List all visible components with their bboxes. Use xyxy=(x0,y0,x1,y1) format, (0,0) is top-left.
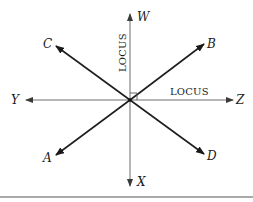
label-b: B xyxy=(206,37,216,51)
diagonal-line-d xyxy=(130,100,204,154)
label-c: C xyxy=(43,37,52,51)
label-y: Y xyxy=(11,93,20,107)
label-x: X xyxy=(136,175,146,189)
label-a: A xyxy=(42,151,52,165)
locus-label-horizontal: LOCUS xyxy=(170,86,209,97)
label-z: Z xyxy=(235,93,245,107)
label-d: D xyxy=(206,149,217,163)
diagram-canvas: W X Y Z C B A D LOCUS LOCUS xyxy=(0,0,253,202)
locus-label-vertical: LOCUS xyxy=(117,33,128,72)
label-w: W xyxy=(137,10,151,24)
diagonal-line-a xyxy=(56,100,130,155)
intersection-point xyxy=(128,98,132,102)
locus-diagram: W X Y Z C B A D LOCUS LOCUS xyxy=(0,0,253,202)
